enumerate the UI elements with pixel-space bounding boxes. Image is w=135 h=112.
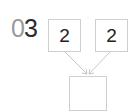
input-box-left: 2 (48, 19, 81, 52)
input-box-left-value: 2 (59, 25, 70, 47)
result-answer-box[interactable] (69, 76, 107, 111)
arrow-left-to-result (65, 52, 87, 74)
problem-number: 03 (11, 16, 37, 41)
input-box-right: 2 (95, 19, 128, 52)
arrow-right-to-result (89, 52, 110, 74)
input-box-right-value: 2 (106, 25, 117, 47)
problem-number-digit: 3 (24, 14, 37, 42)
problem-number-prefix: 0 (11, 14, 24, 42)
